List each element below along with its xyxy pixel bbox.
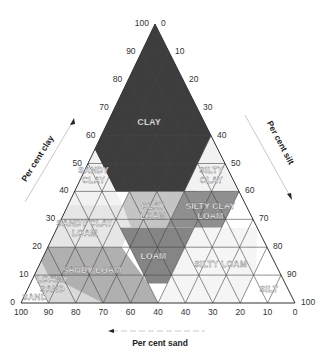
silt-tick-label: 0 — [161, 18, 166, 28]
clay-tick-label: 70 — [99, 102, 109, 112]
clay-axis-title: Per cent clay — [19, 133, 55, 183]
sand-tick-label: 70 — [98, 307, 108, 317]
sand-axis-title: Per cent sand — [132, 338, 188, 348]
silt-axis-arrowhead — [287, 193, 292, 200]
clay-tick-label: 10 — [19, 269, 29, 279]
region-label-clay-loam: LOAM — [140, 211, 166, 221]
sand-tick-label: 60 — [126, 307, 136, 317]
sand-tick-label: 100 — [14, 307, 28, 317]
silt-tick-label: 30 — [203, 102, 213, 112]
sand-tick-label: 40 — [153, 307, 163, 317]
silt-tick-label: 50 — [231, 158, 241, 168]
region-label-loamy-sand: LOAMY — [36, 274, 68, 284]
silt-tick-label: 60 — [245, 185, 255, 195]
silt-tick-label: 40 — [217, 130, 227, 140]
clay-tick-label: 20 — [32, 241, 42, 251]
region-label-clay-loam: CLAY — [141, 201, 164, 211]
clay-tick-label: 80 — [113, 74, 123, 84]
silt-tick-label: 100 — [301, 297, 315, 307]
sand-tick-label: 20 — [235, 307, 245, 317]
sand-tick-label: 40 — [181, 307, 191, 317]
sand-tick-label: 0 — [293, 307, 298, 317]
clay-axis-arrowhead — [70, 118, 75, 125]
clay-tick-label: 40 — [59, 185, 69, 195]
clay-tick-label: 90 — [126, 46, 136, 56]
sand-tick-label: 30 — [208, 307, 218, 317]
region-label-silty-clay-loam: SILTY CLAY — [185, 201, 235, 211]
region-label-sandy-clay: CLAY — [82, 175, 105, 185]
silt-tick-label: 70 — [259, 213, 269, 223]
silt-tick-label: 10 — [175, 46, 185, 56]
clay-tick-label: 100 — [135, 18, 149, 28]
region-label-sandy-clay: SANDY — [78, 165, 109, 175]
region-label-silty-clay: CLAY — [200, 175, 223, 185]
clay-tick-label: 60 — [86, 130, 96, 140]
region-label-sandy-clay-loam: SANDY CLAY — [56, 218, 112, 228]
soil-texture-triangle: CLAYSANDYCLAYSILTYCLAYCLAYLOAMSILTY CLAY… — [0, 0, 331, 358]
region-label-sandy-loam: SANDY LOAM — [62, 265, 121, 275]
clay-tick-label: 50 — [73, 158, 83, 168]
sand-tick-label: 90 — [44, 307, 54, 317]
silt-tick-label: 80 — [273, 241, 283, 251]
silt-tick-label: 90 — [287, 269, 297, 279]
region-label-silty-clay: SILTY — [199, 165, 224, 175]
clay-axis-title-group: Per cent clay — [19, 133, 55, 183]
sand-axis-arrowhead — [108, 329, 114, 333]
region-label-clay: CLAY — [138, 117, 161, 127]
clay-tick-label: 30 — [46, 213, 56, 223]
region-label-sand: SAND — [22, 292, 47, 302]
clay-tick-label: 0 — [10, 297, 15, 307]
region-label-silty-clay-loam: LOAM — [197, 211, 223, 221]
region-label-silt: SILT — [260, 284, 279, 294]
region-label-silty-loam: SILTY LOAM — [194, 259, 247, 269]
silt-tick-label: 20 — [189, 74, 199, 84]
sand-tick-label: 80 — [71, 307, 81, 317]
sand-tick-label: 10 — [263, 307, 273, 317]
region-label-loam: LOAM — [140, 251, 166, 261]
sand-tick-labels: 1009080706040403020100 — [14, 307, 298, 317]
region-label-sandy-clay-loam: LOAM — [72, 228, 98, 238]
